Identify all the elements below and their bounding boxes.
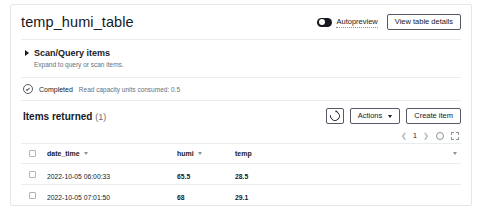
header-actions: Autopreview View table details [317,14,461,30]
status-detail: Read capacity units consumed: 0.5 [79,86,180,93]
page-title: temp_humi_table [21,14,134,30]
expand-icon[interactable] [451,132,459,140]
chevron-left-icon[interactable]: ❮ [401,132,407,139]
cell-value: 2022-10-05 07:01:50 [47,194,110,201]
autopreview-label: Autopreview [336,17,377,28]
cell-end [305,185,461,206]
items-returned-title: Items returned (1) [21,111,106,122]
pagination: ❮ 1 ❯ [401,132,429,139]
table-head: date_time humi temp [21,144,461,164]
gear-icon[interactable] [436,132,444,140]
checkbox-icon[interactable] [29,171,36,178]
table-row[interactable]: 2022-10-05 07:01:50 68 29.1 [21,185,461,206]
cell-date-time: 2022-10-05 06:00:33 [47,164,177,185]
view-table-details-button[interactable]: View table details [387,14,461,30]
cell-temp: 29.1 [235,185,305,206]
pagination-row: ❮ 1 ❯ [21,128,461,143]
items-returned-count: (1) [95,112,106,122]
checkbox-icon[interactable] [29,192,36,199]
select-all-cell [21,144,47,164]
column-header-date-time[interactable]: date_time [47,144,177,164]
cell-value: 2022-10-05 06:00:33 [47,173,110,180]
cell-end [305,164,461,185]
status-label: Completed [39,86,73,93]
dynamodb-explore-items-page: temp_humi_table Autopreview View table d… [0,0,482,218]
items-table: date_time humi temp [21,143,461,206]
refresh-icon [328,109,342,123]
actions-label: Actions [358,109,383,123]
cell-date-time: 2022-10-05 07:01:50 [47,185,177,206]
items-table-wrap: date_time humi temp [21,143,461,206]
row-select-cell [21,185,47,206]
page-number[interactable]: 1 [413,132,417,139]
column-header-end [305,144,461,164]
card-header: temp_humi_table Autopreview View table d… [11,5,471,39]
refresh-button[interactable] [326,108,344,124]
caret-down-icon[interactable] [198,152,202,155]
chevron-right-icon[interactable]: ❯ [423,132,429,139]
actions-dropdown-button[interactable]: Actions [350,108,401,124]
column-label: humi [177,150,194,157]
items-returned-label: Items returned [23,111,92,122]
create-item-button[interactable]: Create item [406,108,461,124]
column-header-humi[interactable]: humi [177,144,235,164]
cell-temp: 28.5 [235,164,305,185]
cell-humi: 65.5 [177,164,235,185]
scan-query-panel[interactable]: Scan/Query items Expand to query or scan… [21,39,461,77]
toggle-on-icon[interactable] [317,18,332,27]
cell-value: 68 [177,194,185,201]
scan-query-header[interactable]: Scan/Query items [21,48,461,58]
scan-query-title: Scan/Query items [34,48,110,58]
table-body: 2022-10-05 06:00:33 65.5 28.5 [21,164,461,206]
row-select-cell [21,164,47,185]
table-header-row: date_time humi temp [21,144,461,164]
cell-value: 28.5 [235,173,248,180]
checkbox-icon[interactable] [29,150,36,157]
table-row[interactable]: 2022-10-05 06:00:33 65.5 28.5 [21,164,461,185]
cell-value: 29.1 [235,194,248,201]
items-toolbar: Items returned (1) Actions Create item [21,100,461,128]
caret-down-icon[interactable] [84,152,88,155]
column-label: date_time [47,150,80,157]
caret-right-icon[interactable] [25,50,29,56]
toolbar-actions: Actions Create item [326,108,461,124]
caret-down-icon [388,115,392,118]
scan-query-subtitle: Expand to query or scan items. [21,61,461,68]
status-bar: Completed Read capacity units consumed: … [21,77,461,100]
column-label: temp [235,150,252,157]
autopreview-toggle[interactable]: Autopreview [317,17,377,28]
column-header-temp[interactable]: temp [235,144,305,164]
check-circle-icon [23,84,33,94]
table-card: temp_humi_table Autopreview View table d… [10,4,472,206]
caret-down-icon[interactable] [453,152,457,155]
cell-value: 65.5 [177,173,190,180]
cell-humi: 68 [177,185,235,206]
